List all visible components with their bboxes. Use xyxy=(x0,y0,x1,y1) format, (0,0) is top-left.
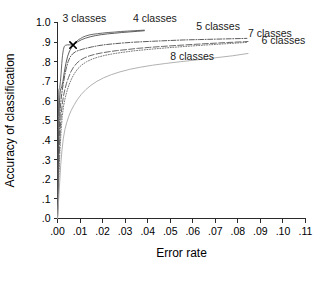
x-axis-ticks: .00.01.02.03.04.05.06.07.08.09.10.11 xyxy=(50,219,312,237)
curve-4-classes xyxy=(58,31,145,219)
y-tick-label: .4 xyxy=(42,134,51,146)
chart-figure: .0.1.2.3.4.5.6.7.8.91.0 .00.01.02.03.04.… xyxy=(0,0,329,283)
x-tick-label: .05 xyxy=(163,225,178,237)
label-8-classes: 8 classes xyxy=(170,50,214,62)
x-tick-label: .10 xyxy=(276,225,291,237)
x-tick-label: .08 xyxy=(231,225,246,237)
curve-3-classes xyxy=(58,30,145,218)
label-3-classes: 3 classes xyxy=(62,12,106,24)
x-tick-label: .06 xyxy=(185,225,200,237)
curve-6-classes xyxy=(58,42,249,219)
y-tick-label: .5 xyxy=(42,114,51,126)
y-tick-label: 1.0 xyxy=(36,16,51,28)
x-tick-label: .09 xyxy=(253,225,268,237)
y-tick-label: .6 xyxy=(42,95,51,107)
y-tick-label: .7 xyxy=(42,75,51,87)
y-tick-label: .9 xyxy=(42,36,51,48)
y-tick-label: .2 xyxy=(42,173,51,185)
x-axis-title: Error rate xyxy=(156,246,207,260)
roc-chart: .0.1.2.3.4.5.6.7.8.91.0 .00.01.02.03.04.… xyxy=(0,0,329,283)
curve-7-classes xyxy=(58,42,249,218)
x-tick-label: .11 xyxy=(299,225,313,237)
label-5-classes: 5 classes xyxy=(196,20,240,32)
annotation-group: 3 classes4 classes5 classes7 classes6 cl… xyxy=(62,12,305,63)
curve-group xyxy=(58,30,249,218)
x-tick-label: .03 xyxy=(118,225,133,237)
y-axis-ticks: .0.1.2.3.4.5.6.7.8.91.0 xyxy=(36,16,58,224)
x-tick-label: .07 xyxy=(208,225,223,237)
y-tick-label: .3 xyxy=(42,154,51,166)
x-tick-label: .02 xyxy=(95,225,110,237)
label-4-classes: 4 classes xyxy=(133,12,177,24)
y-tick-label: .0 xyxy=(42,212,51,224)
label-6-classes: 6 classes xyxy=(262,34,306,46)
x-tick-label: .00 xyxy=(50,225,65,237)
x-tick-label: .04 xyxy=(140,225,155,237)
y-tick-label: .8 xyxy=(42,56,51,68)
curve-8-classes xyxy=(58,53,249,218)
x-tick-label: .01 xyxy=(73,225,88,237)
y-axis-title: Accuracy of classification xyxy=(3,53,17,187)
y-tick-label: .1 xyxy=(42,193,51,205)
